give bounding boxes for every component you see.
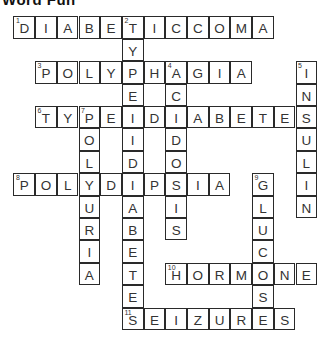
grid-cell[interactable]: 10H — [165, 263, 187, 285]
grid-cell[interactable]: O — [252, 263, 274, 285]
grid-cell[interactable]: C — [187, 16, 209, 38]
grid-cell[interactable]: Y — [79, 173, 101, 195]
grid-cell[interactable]: B — [209, 106, 231, 128]
cell-letter: T — [36, 111, 56, 127]
cell-letter: I — [36, 21, 56, 37]
grid-cell[interactable]: A — [252, 16, 274, 38]
grid-cell[interactable]: E — [122, 285, 144, 307]
grid-cell[interactable]: A — [187, 106, 209, 128]
grid-cell[interactable]: A — [79, 263, 101, 285]
cell-letter: S — [297, 111, 317, 127]
grid-cell[interactable]: I — [144, 16, 166, 38]
grid-cell[interactable]: C — [165, 16, 187, 38]
grid-cell[interactable]: R — [209, 263, 231, 285]
cell-letter: D — [166, 133, 186, 149]
grid-cell[interactable]: E — [100, 106, 122, 128]
grid-cell[interactable]: S — [165, 218, 187, 240]
grid-cell[interactable]: O — [57, 61, 79, 83]
grid-cell[interactable]: P — [122, 61, 144, 83]
grid-cell[interactable]: 8P — [13, 173, 35, 195]
cell-letter: U — [297, 133, 317, 149]
grid-cell[interactable]: I — [165, 196, 187, 218]
grid-cell[interactable]: B — [79, 16, 101, 38]
grid-cell[interactable]: 3P — [35, 61, 57, 83]
grid-cell[interactable]: I — [165, 106, 187, 128]
grid-cell[interactable]: T — [252, 106, 274, 128]
grid-cell[interactable]: S — [274, 308, 296, 330]
grid-cell[interactable]: 7P — [79, 106, 101, 128]
grid-cell[interactable]: M — [230, 263, 252, 285]
grid-cell[interactable]: N — [296, 196, 318, 218]
grid-cell[interactable]: N — [296, 84, 318, 106]
grid-cell[interactable]: D — [122, 151, 144, 173]
grid-cell[interactable]: L — [57, 173, 79, 195]
grid-cell[interactable]: E — [252, 308, 274, 330]
grid-cell[interactable]: Y — [122, 39, 144, 61]
grid-cell[interactable]: S — [296, 106, 318, 128]
grid-cell[interactable]: E — [230, 106, 252, 128]
grid-cell[interactable]: 5I — [296, 61, 318, 83]
grid-cell[interactable]: P — [144, 173, 166, 195]
grid-cell[interactable]: T — [122, 263, 144, 285]
grid-cell[interactable]: L — [79, 61, 101, 83]
grid-cell[interactable]: O — [187, 263, 209, 285]
grid-cell[interactable]: U — [252, 218, 274, 240]
grid-cell[interactable]: I — [122, 106, 144, 128]
grid-cell[interactable]: L — [296, 151, 318, 173]
grid-cell[interactable]: E — [144, 308, 166, 330]
cell-letter: R — [80, 223, 100, 239]
grid-cell[interactable]: Z — [187, 308, 209, 330]
grid-cell[interactable]: 9G — [252, 173, 274, 195]
grid-cell[interactable]: H — [144, 61, 166, 83]
grid-cell[interactable]: 2T — [122, 16, 144, 38]
grid-cell[interactable]: 4A — [165, 61, 187, 83]
grid-cell[interactable]: N — [274, 263, 296, 285]
grid-cell[interactable]: S — [165, 173, 187, 195]
grid-cell[interactable]: A — [122, 196, 144, 218]
grid-cell[interactable]: E — [100, 16, 122, 38]
cell-letter: E — [145, 313, 165, 329]
grid-cell[interactable]: I — [209, 61, 231, 83]
grid-cell[interactable]: A — [230, 61, 252, 83]
grid-cell[interactable]: E — [296, 263, 318, 285]
grid-cell[interactable]: O — [35, 173, 57, 195]
grid-cell[interactable]: I — [187, 173, 209, 195]
grid-cell[interactable]: C — [252, 240, 274, 262]
grid-cell[interactable]: G — [187, 61, 209, 83]
grid-cell[interactable]: E — [122, 240, 144, 262]
grid-cell[interactable]: I — [296, 173, 318, 195]
grid-cell[interactable]: E — [122, 84, 144, 106]
cell-letter: U — [253, 223, 273, 239]
cell-letter: D — [14, 21, 34, 37]
grid-cell[interactable]: B — [122, 218, 144, 240]
grid-cell[interactable]: O — [79, 128, 101, 150]
grid-cell[interactable]: U — [296, 128, 318, 150]
grid-cell[interactable]: S — [252, 285, 274, 307]
grid-cell[interactable]: D — [100, 173, 122, 195]
grid-cell[interactable]: E — [274, 106, 296, 128]
grid-cell[interactable]: D — [144, 106, 166, 128]
grid-cell[interactable]: I — [165, 308, 187, 330]
grid-cell[interactable]: L — [79, 151, 101, 173]
grid-cell[interactable]: 6T — [35, 106, 57, 128]
grid-cell[interactable]: R — [230, 308, 252, 330]
grid-cell[interactable]: M — [230, 16, 252, 38]
grid-cell[interactable]: U — [79, 196, 101, 218]
grid-cell[interactable]: R — [79, 218, 101, 240]
grid-cell[interactable]: Y — [57, 106, 79, 128]
grid-cell[interactable]: O — [165, 151, 187, 173]
grid-cell[interactable]: A — [57, 16, 79, 38]
grid-cell[interactable]: A — [209, 173, 231, 195]
grid-cell[interactable]: C — [165, 84, 187, 106]
grid-cell[interactable]: I — [122, 173, 144, 195]
grid-cell[interactable]: O — [209, 16, 231, 38]
grid-cell[interactable]: 11S — [122, 308, 144, 330]
grid-cell[interactable]: L — [252, 196, 274, 218]
grid-cell[interactable]: I — [35, 16, 57, 38]
grid-cell[interactable]: D — [165, 128, 187, 150]
grid-cell[interactable]: Y — [100, 61, 122, 83]
grid-cell[interactable]: U — [209, 308, 231, 330]
grid-cell[interactable]: I — [79, 240, 101, 262]
grid-cell[interactable]: 1D — [13, 16, 35, 38]
grid-cell[interactable]: I — [122, 128, 144, 150]
